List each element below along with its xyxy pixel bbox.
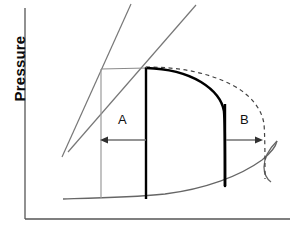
steep-straight-line bbox=[62, 4, 131, 157]
pressure-diagram-figure: Pressure A B bbox=[0, 0, 294, 228]
region-a-arrow bbox=[100, 137, 146, 144]
diagram-canvas bbox=[0, 0, 294, 228]
region-b-arrow bbox=[226, 137, 263, 144]
region-b-label: B bbox=[240, 112, 249, 127]
lower-envelope-curve bbox=[63, 141, 277, 199]
y-axis-label: Pressure bbox=[11, 14, 28, 124]
upper-envelope-solid-curve bbox=[146, 68, 225, 186]
region-a-label: A bbox=[118, 112, 127, 127]
shallow-straight-line bbox=[68, 5, 196, 152]
